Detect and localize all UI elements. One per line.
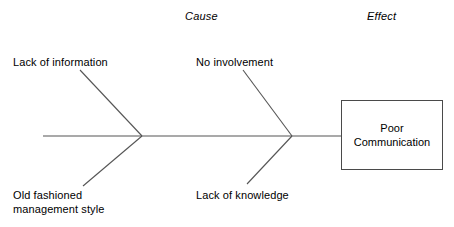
bone-upper-middle xyxy=(243,70,292,136)
bone-upper-left xyxy=(80,70,142,136)
effect-box-label: Poor Communication xyxy=(354,121,430,149)
effect-box: Poor Communication xyxy=(341,100,443,170)
fishbone-diagram: Cause Effect Lack of information Old fas… xyxy=(0,0,454,227)
bone-lower-left xyxy=(83,136,142,186)
effect-header: Effect xyxy=(367,10,396,22)
cause-header: Cause xyxy=(185,10,218,22)
cause-label-lack-of-knowledge: Lack of knowledge xyxy=(196,188,289,202)
cause-label-lack-of-information: Lack of information xyxy=(13,55,108,69)
cause-label-old-fashioned-management-style: Old fashioned management style xyxy=(13,188,104,216)
cause-label-no-involvement: No involvement xyxy=(196,55,273,69)
bone-lower-middle xyxy=(247,136,292,184)
